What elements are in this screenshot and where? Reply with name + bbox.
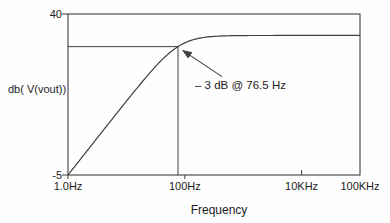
- annotation-arrow: [183, 51, 222, 77]
- response-curve: [68, 35, 360, 175]
- bode-plot-figure: db( V(vout)) Frequency – 3 dB @ 76.5 Hz …: [0, 0, 390, 223]
- x-tick-label: 1.0Hz: [54, 180, 83, 192]
- x-axis-label: Frequency: [191, 204, 248, 217]
- y-axis-label: db( V(vout)): [8, 83, 66, 96]
- y-tick-label: -5: [24, 169, 62, 181]
- x-tick-label: 100Hz: [169, 180, 201, 192]
- x-tick-label: 10KHz: [285, 180, 318, 192]
- y-tick-label: 40: [24, 8, 62, 20]
- x-tick-label: 100KHz: [340, 180, 379, 192]
- plot-border: [68, 14, 360, 175]
- cutoff-annotation: – 3 dB @ 76.5 Hz: [195, 79, 286, 92]
